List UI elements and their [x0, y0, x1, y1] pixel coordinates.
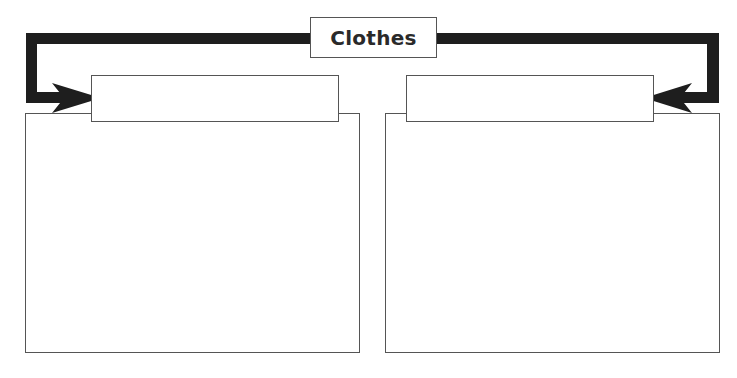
right-label-box: [406, 75, 654, 122]
right-content-box: [385, 113, 720, 353]
left-label-box: [91, 75, 339, 122]
left-content-box: [25, 113, 360, 353]
diagram-title: Clothes: [330, 26, 417, 50]
title-box: Clothes: [310, 17, 437, 58]
